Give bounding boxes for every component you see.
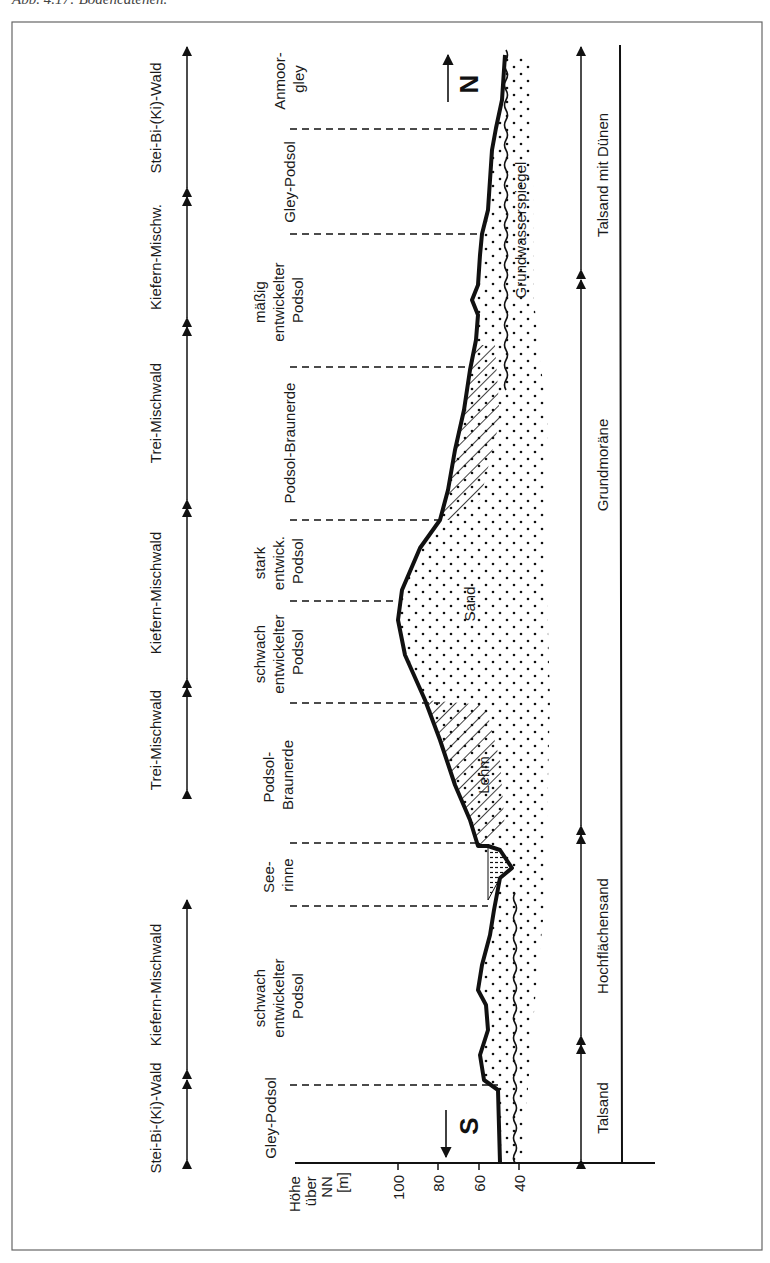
axis-tick-label: 80	[430, 1175, 447, 1192]
vegetation-label: Kiefern-Mischw.	[147, 204, 164, 310]
sand-label: Sand	[461, 586, 478, 621]
vegetation-label: Stei-Bi-(Ki)-Wald	[147, 1062, 164, 1173]
soil-label: Gley-Podsol	[281, 141, 298, 223]
soil-labels: Gley-Podsol schwach entwickelter Podsol …	[251, 48, 307, 1159]
geology-label: Talsand	[594, 1082, 611, 1134]
vegetation-label: Stei-Bi-(Ki)-Wald	[147, 62, 164, 173]
geology-labels: Talsand Hochflächensand Grundmoräne Tals…	[594, 113, 611, 1134]
soil-label: stark entwick. Podsol	[251, 532, 306, 590]
south-label: S	[454, 1117, 484, 1134]
soil-label: Podsol- Braunerde	[260, 740, 296, 810]
geology-column	[581, 45, 655, 1163]
vegetation-label: Trei-Mischwald	[147, 363, 164, 463]
axis-tick-label: 40	[511, 1175, 528, 1192]
geology-label: Grundmoräne	[594, 419, 611, 512]
groundwater-label: Grundwasserspiegel	[512, 162, 529, 299]
geology-label: Hochflächensand	[594, 878, 611, 994]
vegetation-labels: Stei-Bi-(Ki)-Wald Kiefern-Mischwald Trei…	[147, 62, 164, 1173]
north-label: N	[454, 75, 484, 94]
geology-label: Talsand mit Dünen	[594, 113, 611, 237]
soil-label: Podsol-Braunerde	[281, 383, 298, 504]
soil-label: See- rinne	[260, 857, 296, 893]
vegetation-label: Kiefern-Mischwald	[147, 532, 164, 655]
figure-frame	[12, 22, 762, 1250]
direction-south: S	[446, 1110, 484, 1157]
axis-title: Höhe über NN [m]	[286, 1172, 351, 1212]
lehm-label: Lehm	[475, 756, 492, 794]
direction-north: N	[448, 55, 484, 102]
soil-label: schwach entwickelter Podsol	[251, 954, 306, 1037]
axis-tick-label: 60	[471, 1175, 488, 1192]
vegetation-label: Kiefern-Mischwald	[147, 924, 164, 1047]
terrain-profile: Sand Lehm Grundwasserspiegel	[398, 50, 550, 1163]
soil-catena-diagram: Stei-Bi-(Ki)-Wald Kiefern-Mischwald Trei…	[0, 0, 770, 1263]
vegetation-label: Trei-Mischwald	[147, 690, 164, 790]
soil-label: Gley-Podsol	[262, 1077, 279, 1159]
elevation-axis: 100 80 60 40 Höhe über NN [m]	[286, 1163, 655, 1212]
soil-label: schwach entwickelter Podsol	[251, 610, 306, 693]
soil-label: Anmoor- gley	[271, 48, 307, 110]
soil-label: mäßig entwickelter Podsol	[251, 258, 306, 341]
axis-tick-label: 100	[390, 1175, 407, 1200]
